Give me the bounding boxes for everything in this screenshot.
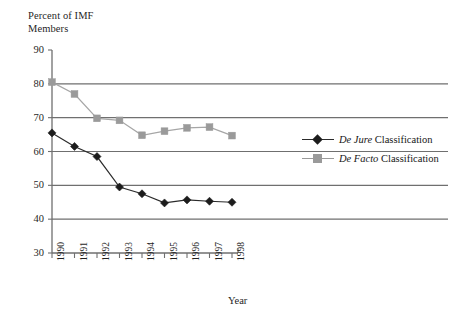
data-point-square — [94, 115, 101, 122]
x-tick-label: 1990 — [56, 242, 66, 261]
legend-item-de-jure: De Jure Classification — [302, 130, 439, 149]
legend-label-de-jure: De Jure Classification — [339, 134, 433, 145]
y-tick-label: 30 — [22, 247, 44, 258]
data-point-square — [49, 79, 56, 86]
data-point-diamond — [228, 198, 236, 206]
y-tick-label: 80 — [22, 78, 44, 89]
data-point-square — [184, 124, 191, 131]
data-point-square — [116, 117, 123, 124]
x-axis-title: Year — [228, 295, 247, 306]
legend-item-de-facto: De Facto Classification — [302, 149, 439, 168]
data-point-diamond — [206, 197, 214, 205]
legend-swatch-de-jure — [302, 133, 334, 147]
data-point-square — [206, 124, 213, 131]
diamond-marker-icon — [312, 134, 322, 144]
y-tick-label: 70 — [22, 112, 44, 123]
legend-swatch-de-facto — [302, 152, 334, 166]
x-tick-label: 1997 — [214, 242, 224, 261]
y-tick-label: 40 — [22, 213, 44, 224]
legend-label-de-facto-italic: De Facto — [339, 153, 378, 164]
x-tick-label: 1992 — [101, 242, 111, 261]
data-point-diamond — [138, 190, 146, 198]
data-point-square — [161, 128, 168, 135]
x-tick-label: 1991 — [79, 242, 89, 261]
y-tick-label: 90 — [22, 44, 44, 55]
legend-label-de-facto: De Facto Classification — [339, 153, 439, 164]
data-point-diamond — [183, 196, 191, 204]
square-marker-icon — [313, 154, 322, 163]
series-line — [52, 82, 232, 135]
legend-label-de-jure-rest: Classification — [372, 134, 432, 145]
x-tick-label: 1994 — [146, 242, 156, 261]
chart-legend: De Jure Classification De Facto Classifi… — [302, 130, 439, 168]
x-tick-label: 1998 — [236, 242, 246, 261]
x-tick-label: 1995 — [169, 242, 179, 261]
data-point-square — [229, 132, 236, 139]
chart-figure: Percent of IMFMembers 90807060504030 199… — [0, 0, 458, 320]
data-point-diamond — [71, 142, 79, 150]
legend-label-de-jure-italic: De Jure — [339, 134, 372, 145]
data-point-square — [139, 132, 146, 139]
data-point-diamond — [161, 199, 169, 207]
x-tick-label: 1993 — [124, 242, 134, 261]
y-tick-label: 60 — [22, 146, 44, 157]
data-point-square — [71, 91, 78, 98]
y-tick-label: 50 — [22, 179, 44, 190]
series-markers — [48, 79, 236, 207]
data-point-diamond — [48, 129, 56, 137]
x-tick-label: 1996 — [191, 242, 201, 261]
legend-label-de-facto-rest: Classification — [378, 153, 438, 164]
